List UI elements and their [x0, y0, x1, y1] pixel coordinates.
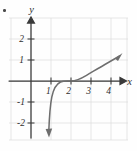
- ytick-label-1: 1: [19, 55, 24, 65]
- grid-lines: [9, 18, 128, 140]
- ytick-label-neg1: -1: [17, 97, 25, 107]
- x-axis-label: x: [126, 76, 132, 87]
- math-graph-figure: 1 2 3 4 2 1 -1 -2 x y: [0, 0, 137, 151]
- xtick-label-3: 3: [85, 86, 91, 96]
- axis-labels: x y: [28, 4, 132, 87]
- coordinate-plane-plot: 1 2 3 4 2 1 -1 -2 x y: [0, 0, 137, 151]
- xtick-label-1: 1: [46, 86, 51, 96]
- x-axis-arrowhead: [120, 78, 127, 85]
- ytick-label-2: 2: [19, 34, 24, 44]
- xtick-label-4: 4: [106, 86, 111, 96]
- ytick-label-neg2: -2: [17, 118, 25, 128]
- xtick-label-2: 2: [66, 86, 71, 96]
- y-axis-label: y: [28, 4, 34, 15]
- axes: [9, 17, 127, 138]
